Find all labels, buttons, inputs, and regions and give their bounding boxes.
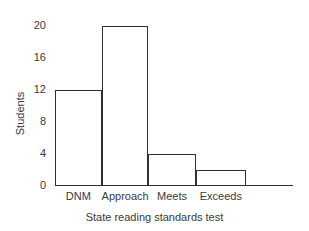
y-axis-tick-labels: 0 4 8 12 16 20 [26, 0, 46, 231]
bar-exceeds [196, 170, 246, 186]
bar-chart: Students 0 4 8 12 16 20 DNM Approach Mee… [0, 0, 309, 231]
x-axis-title: State reading standards test [0, 211, 309, 223]
bar-approach [102, 26, 149, 186]
y-tick-label: 4 [26, 148, 46, 159]
plot-area [55, 20, 293, 186]
y-tick-label: 8 [26, 116, 46, 127]
y-tick-label: 20 [26, 20, 46, 31]
y-axis-title: Students [15, 74, 26, 154]
x-axis-line [55, 185, 293, 186]
x-tick-label-meets: Meets [148, 190, 196, 202]
y-tick-label: 0 [26, 180, 46, 191]
x-tick-label-exceeds: Exceeds [196, 190, 246, 202]
y-tick-label: 12 [26, 84, 46, 95]
x-tick-label-approach: Approach [102, 190, 149, 202]
x-tick-label-dnm: DNM [55, 190, 102, 202]
bar-meets [148, 154, 196, 186]
y-tick-label: 16 [26, 52, 46, 63]
bar-dnm [55, 90, 102, 186]
